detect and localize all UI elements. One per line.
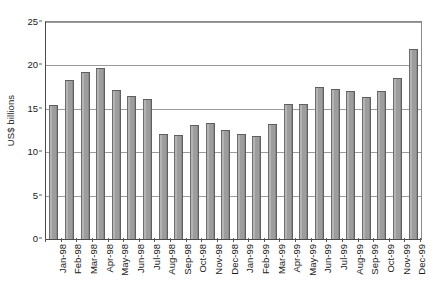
x-axis-tick-mark [45, 238, 46, 242]
x-axis-tick-mark [139, 238, 140, 242]
bar [174, 135, 183, 239]
x-axis-tick-mark [311, 238, 312, 242]
bar [331, 89, 340, 239]
x-axis-tick-mark [404, 238, 405, 242]
x-axis-tick-mark [358, 238, 359, 242]
y-axis-tick-mark [39, 21, 42, 22]
x-axis-tick-mark [326, 238, 327, 242]
x-axis-tick-label: Jun-99 [322, 243, 334, 294]
x-axis-tick-mark [108, 238, 109, 242]
x-axis-tick-label: Jul-99 [338, 243, 350, 294]
x-axis-tick-mark [154, 238, 155, 242]
x-axis-tick-label: Apr-99 [291, 243, 303, 294]
x-axis-tick-label: Aug-99 [354, 243, 366, 294]
bar [409, 49, 418, 239]
x-axis-tick-mark [217, 238, 218, 242]
y-axis-tick-mark [39, 64, 42, 65]
y-axis-tick-labels: 0510152025 [22, 21, 42, 238]
x-axis-tick-mark [233, 238, 234, 242]
bar [112, 90, 121, 239]
y-axis-title-text: US$ billions [6, 94, 17, 145]
x-axis-tick-label: Apr-98 [104, 243, 116, 294]
bar [393, 78, 402, 239]
x-axis-tick-mark [248, 238, 249, 242]
bar [65, 80, 74, 239]
x-axis-tick-label: Jul-98 [151, 243, 163, 294]
bar [81, 72, 90, 239]
x-axis-tick-mark [279, 238, 280, 242]
y-axis-tick-label: 5 [33, 189, 38, 200]
bar [221, 130, 230, 239]
bar [159, 134, 168, 239]
y-axis-tick-mark [39, 151, 42, 152]
x-axis-tick-label: Dec-98 [229, 243, 241, 294]
y-axis-tick-label: 20 [27, 59, 38, 70]
x-axis-tick-mark [201, 238, 202, 242]
bar [315, 87, 324, 239]
x-axis-tick-label: May-98 [119, 243, 131, 294]
x-axis-tick-label: Mar-99 [276, 243, 288, 294]
x-axis-tick-label: Jun-98 [135, 243, 147, 294]
plot-area [45, 21, 422, 240]
x-axis-tick-label: Dec-99 [416, 243, 428, 294]
bars-layer [46, 22, 421, 239]
x-axis-tick-label: Feb-99 [260, 243, 272, 294]
x-axis-tick-mark [61, 238, 62, 242]
x-axis-tick-mark [389, 238, 390, 242]
x-axis-tick-mark [76, 238, 77, 242]
y-axis-title: US$ billions [0, 0, 22, 240]
bar [206, 123, 215, 239]
x-axis-tick-mark [295, 238, 296, 242]
bar [49, 105, 58, 239]
bar [127, 96, 136, 239]
x-axis-tick-label: Feb-98 [72, 243, 84, 294]
y-axis-tick-label: 10 [27, 146, 38, 157]
x-axis-tick-label: Jan-98 [57, 243, 69, 294]
y-axis-tick-label: 25 [27, 16, 38, 27]
x-axis-tick-label: May-99 [307, 243, 319, 294]
x-axis-tick-label: Oct-99 [385, 243, 397, 294]
bar [190, 125, 199, 239]
bar [252, 136, 261, 239]
bar [346, 91, 355, 239]
x-axis-tick-mark [373, 238, 374, 242]
y-axis-tick-label: 15 [27, 102, 38, 113]
x-axis-tick-label: Mar-98 [88, 243, 100, 294]
x-axis-tick-label: Nov-98 [213, 243, 225, 294]
x-axis-tick-mark [170, 238, 171, 242]
x-axis-tick-mark [420, 238, 421, 242]
x-axis-tick-mark [123, 238, 124, 242]
x-axis-tick-label: Jan-99 [244, 243, 256, 294]
x-axis-tick-label: Nov-99 [401, 243, 413, 294]
x-axis-tick-label: Aug-98 [166, 243, 178, 294]
x-axis-tick-label: Sep-98 [182, 243, 194, 294]
y-axis-tick-mark [39, 238, 42, 239]
bar [377, 91, 386, 239]
bar [362, 97, 371, 239]
x-axis-tick-labels: Jan-98Feb-98Mar-98Apr-98May-98Jun-98Jul-… [45, 243, 422, 294]
x-axis-tick-mark [186, 238, 187, 242]
x-axis-tick-mark [342, 238, 343, 242]
x-axis-tick-label: Sep-99 [369, 243, 381, 294]
bar [237, 134, 246, 239]
y-axis-tick-label: 0 [33, 233, 38, 244]
bar [284, 104, 293, 239]
bar-chart: US$ billions 0510152025 Jan-98Feb-98Mar-… [0, 0, 441, 294]
bar [143, 99, 152, 239]
x-axis-tick-label: Oct-98 [197, 243, 209, 294]
y-axis-tick-mark [39, 107, 42, 108]
x-axis-tick-mark [92, 238, 93, 242]
x-axis-tick-mark [264, 238, 265, 242]
bar [268, 124, 277, 239]
bar [299, 104, 308, 239]
bar [96, 68, 105, 239]
y-axis-tick-mark [39, 194, 42, 195]
